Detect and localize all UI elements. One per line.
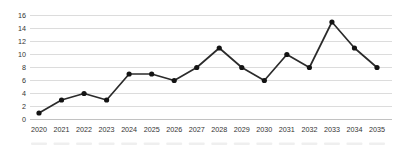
bottom-artifact-dash <box>256 143 272 145</box>
x-tick-label: 2023 <box>99 125 115 134</box>
data-point <box>194 65 199 70</box>
y-axis-labels-group: 0246810121416 <box>18 11 26 124</box>
bottom-artifact-dash <box>324 143 340 145</box>
data-point <box>127 71 132 76</box>
x-tick-label: 2026 <box>166 125 182 134</box>
bottom-artifact-dash <box>234 143 250 145</box>
y-tick-label: 2 <box>22 102 26 111</box>
line-chart-container: 0246810121416 20202021202220232024202520… <box>0 0 403 148</box>
data-point <box>149 71 154 76</box>
bottom-artifact-dash <box>369 143 385 145</box>
bottom-artifact-dash <box>346 143 362 145</box>
data-point <box>374 65 379 70</box>
line-chart: 0246810121416 20202021202220232024202520… <box>0 0 403 148</box>
bottom-artifact-dash <box>144 143 160 145</box>
x-tick-label: 2030 <box>256 125 272 134</box>
y-tick-label: 12 <box>18 37 26 46</box>
y-tick-label: 6 <box>22 76 26 85</box>
data-point <box>307 65 312 70</box>
data-point <box>104 97 109 102</box>
x-tick-label: 2034 <box>346 125 362 134</box>
data-point <box>217 45 222 50</box>
data-point <box>172 78 177 83</box>
bottom-artifact-dash <box>121 143 137 145</box>
data-point <box>352 45 357 50</box>
bottom-artifact-dash <box>279 143 295 145</box>
data-point <box>36 110 41 115</box>
bottom-artifact-group <box>31 143 385 145</box>
x-tick-label: 2022 <box>76 125 92 134</box>
x-tick-label: 2029 <box>234 125 250 134</box>
y-tick-label: 14 <box>18 24 26 33</box>
data-point <box>284 52 289 57</box>
data-point <box>262 78 267 83</box>
bottom-artifact-dash <box>54 143 70 145</box>
data-point <box>239 65 244 70</box>
bottom-artifact-dash <box>31 143 47 145</box>
bottom-artifact-dash <box>301 143 317 145</box>
x-tick-label: 2024 <box>121 125 137 134</box>
bottom-artifact-dash <box>76 143 92 145</box>
y-tick-label: 0 <box>22 115 26 124</box>
data-point <box>329 19 334 24</box>
y-tick-label: 16 <box>18 11 26 20</box>
bottom-artifact-dash <box>189 143 205 145</box>
x-tick-label: 2025 <box>144 125 160 134</box>
x-tick-label: 2027 <box>189 125 205 134</box>
gridlines-group <box>30 16 392 120</box>
y-tick-label: 10 <box>18 50 26 59</box>
data-point <box>59 97 64 102</box>
x-tick-label: 2035 <box>369 125 385 134</box>
y-tick-label: 4 <box>22 89 26 98</box>
x-tick-label: 2032 <box>301 125 317 134</box>
bottom-artifact-dash <box>211 143 227 145</box>
x-tick-label: 2021 <box>54 125 70 134</box>
data-point <box>81 91 86 96</box>
x-tick-label: 2020 <box>31 125 47 134</box>
bottom-artifact-dash <box>166 143 182 145</box>
x-tick-label: 2033 <box>324 125 340 134</box>
x-axis-labels-group: 2020202120222023202420252026202720282029… <box>31 125 385 134</box>
x-tick-label: 2028 <box>211 125 227 134</box>
bottom-artifact-dash <box>99 143 115 145</box>
y-tick-label: 8 <box>22 63 26 72</box>
x-tick-label: 2031 <box>279 125 295 134</box>
